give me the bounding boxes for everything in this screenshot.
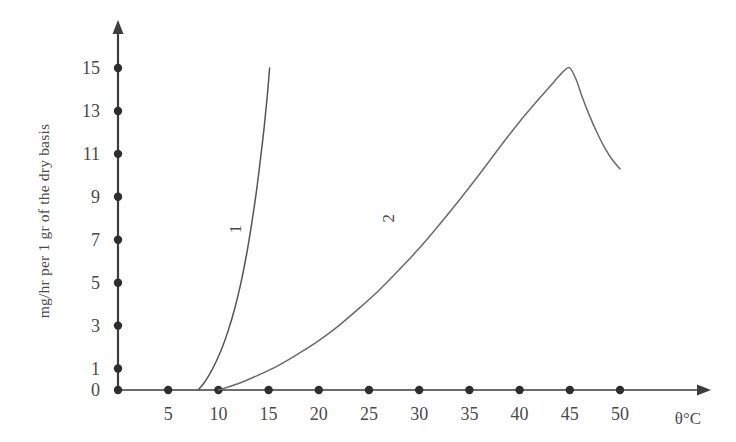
- x-tick-dot: [365, 386, 373, 394]
- x-tick-dot: [315, 386, 323, 394]
- y-tick-label: 5: [91, 273, 100, 293]
- x-tick-dot: [465, 386, 473, 394]
- x-tick-dot: [616, 386, 624, 394]
- y-tick-dot: [114, 364, 122, 372]
- y-tick-label: 1: [91, 359, 100, 379]
- x-tick-dot: [264, 386, 272, 394]
- x-tick-dot: [566, 386, 574, 394]
- y-tick-dot: [114, 236, 122, 244]
- y-tick-dot: [114, 107, 122, 115]
- x-tick-group: 5101520253035404550: [164, 386, 629, 424]
- y-tick-label: 7: [91, 230, 100, 250]
- y-tick-dot: [114, 150, 122, 158]
- x-tick-label: 30: [410, 404, 428, 424]
- x-tick-dot: [415, 386, 423, 394]
- y-tick-dot: [114, 64, 122, 72]
- curve-label-1: 1: [226, 225, 245, 234]
- x-tick-label: 10: [209, 404, 227, 424]
- x-tick-label: 20: [310, 404, 328, 424]
- y-axis-arrowhead: [113, 20, 124, 34]
- x-tick-label: 45: [561, 404, 579, 424]
- x-tick-label: 50: [611, 404, 629, 424]
- x-tick-label: 5: [164, 404, 173, 424]
- data-curve-2: [218, 67, 620, 390]
- y-tick-label: 3: [91, 316, 100, 336]
- y-tick-label: 13: [82, 101, 100, 121]
- y-tick-label: 9: [91, 187, 100, 207]
- curve-label-2: 2: [379, 214, 398, 223]
- x-tick-label: 35: [460, 404, 478, 424]
- y-tick-dot: [114, 278, 122, 286]
- chart-svg: 013579111315 5101520253035404550 12 θ°C: [0, 0, 736, 442]
- y-tick-label: 11: [83, 144, 100, 164]
- y-tick-dot: [114, 386, 122, 394]
- y-tick-dot: [114, 321, 122, 329]
- chart-container: 013579111315 5101520253035404550 12 θ°C …: [0, 0, 736, 442]
- x-tick-label: 40: [511, 404, 529, 424]
- x-tick-label: 25: [360, 404, 378, 424]
- y-tick-group: 013579111315: [82, 58, 122, 400]
- x-axis-title: θ°C: [675, 409, 701, 428]
- data-curves-group: [198, 67, 620, 390]
- y-tick-label: 15: [82, 58, 100, 78]
- x-tick-dot: [515, 386, 523, 394]
- y-tick-label: 0: [91, 380, 100, 400]
- x-tick-label: 15: [260, 404, 278, 424]
- y-tick-dot: [114, 193, 122, 201]
- x-tick-dot: [164, 386, 172, 394]
- x-axis-arrowhead: [697, 385, 711, 396]
- axis-lines: [113, 20, 712, 396]
